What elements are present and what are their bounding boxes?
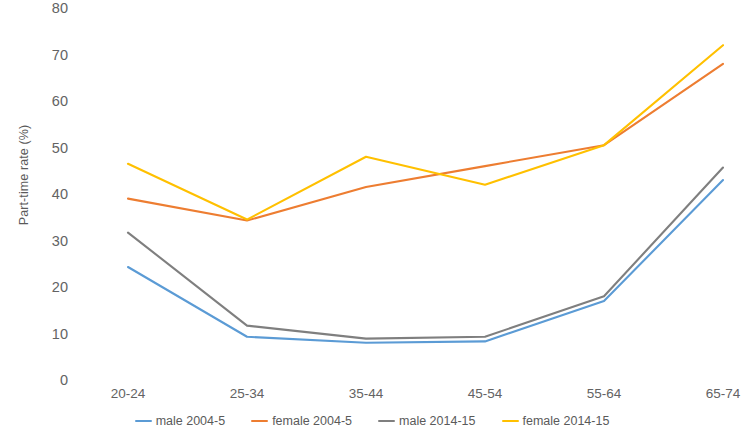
legend-label: male 2014-15 [399,414,475,428]
series-line [128,180,723,343]
legend-item[interactable]: female 2014-15 [502,414,610,428]
y-tick-label: 10 [30,326,68,341]
legend-color-swatch [135,420,152,422]
x-tick-label: 55-64 [564,386,644,401]
y-tick-label: 70 [30,47,68,62]
legend-item[interactable]: female 2004-5 [251,414,352,428]
x-tick-label: 65-74 [683,386,744,401]
y-axis-tick-labels: 01020304050607080 [22,0,68,437]
legend-color-swatch [251,420,268,422]
x-tick-label: 20-24 [88,386,168,401]
series-line [128,167,723,338]
y-tick-label: 0 [30,373,68,388]
line-chart: Part-time rate (%) 01020304050607080 20-… [0,0,744,437]
plot-area [78,8,724,380]
x-axis-tick-labels: 20-2425-3435-4445-5455-6465-74 [78,386,724,408]
legend-label: female 2004-5 [272,414,352,428]
legend-color-swatch [378,420,395,422]
x-tick-label: 35-44 [326,386,406,401]
x-tick-label: 25-34 [207,386,287,401]
legend-item[interactable]: male 2014-15 [378,414,475,428]
series-line [128,64,723,221]
series-line [128,45,723,219]
y-tick-label: 20 [30,280,68,295]
legend-item[interactable]: male 2004-5 [135,414,226,428]
legend-label: male 2004-5 [156,414,226,428]
y-tick-label: 50 [30,140,68,155]
chart-legend: male 2004-5female 2004-5male 2014-15fema… [0,414,744,428]
legend-label: female 2014-15 [523,414,610,428]
legend-color-swatch [502,420,519,422]
y-tick-label: 40 [30,187,68,202]
x-tick-label: 45-54 [445,386,525,401]
y-tick-label: 60 [30,94,68,109]
y-tick-label: 80 [30,1,68,16]
y-tick-label: 30 [30,233,68,248]
plot-svg [78,8,724,380]
